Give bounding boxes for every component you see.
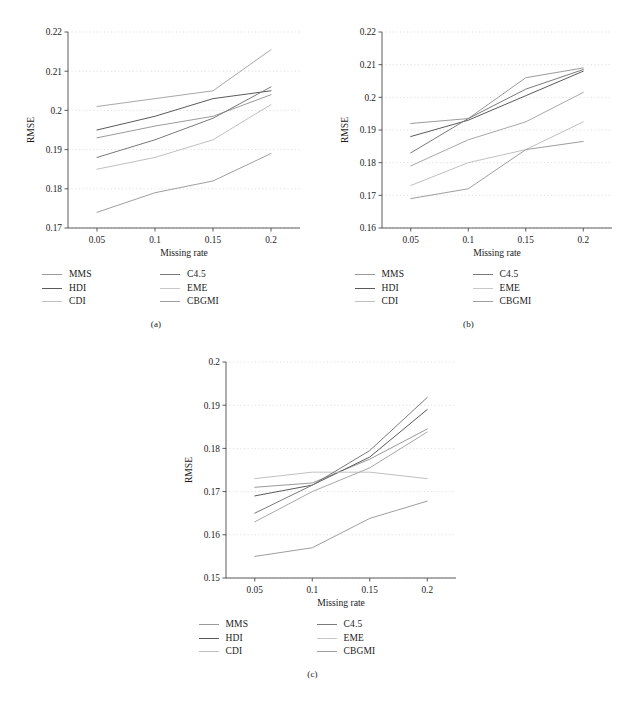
legend-a: MMS HDI CDI C4.5 EME CBGMI (42, 268, 270, 310)
series-line-hdi (255, 410, 428, 496)
series-line-mms (255, 429, 428, 487)
legend-item-cdi[interactable]: CDI (42, 295, 92, 309)
x-tick-label: 0.2 (265, 235, 277, 245)
legend-swatch-eme (317, 638, 337, 639)
legend-item-mms[interactable]: MMS (355, 268, 405, 282)
y-tick-label: 0.19 (46, 145, 63, 155)
legend-label-mms: MMS (382, 268, 405, 282)
series-line-cbgmi (97, 154, 271, 213)
panel-b: 0.160.170.180.190.20.210.220.050.10.150.… (312, 0, 625, 340)
plot-area-b: 0.160.170.180.190.20.210.220.050.10.150.… (312, 0, 625, 268)
legend-item-c45[interactable]: C4.5 (160, 268, 219, 282)
legend-item-mms[interactable]: MMS (199, 618, 249, 632)
legend-label-cbgmi: CBGMI (187, 295, 219, 309)
x-tick-label: 0.2 (577, 235, 589, 245)
legend-label-eme: EME (344, 632, 365, 646)
x-axis-title: Missing rate (317, 597, 365, 608)
legend-item-c45[interactable]: C4.5 (473, 268, 532, 282)
legend-item-eme[interactable]: EME (160, 282, 219, 296)
legend-swatch-eme (473, 288, 493, 289)
x-tick-label: 0.2 (421, 585, 433, 595)
x-tick-label: 0.1 (462, 235, 474, 245)
y-tick-label: 0.18 (360, 158, 377, 168)
legend-item-cdi[interactable]: CDI (355, 295, 405, 309)
panel-caption-a: (a) (0, 319, 312, 329)
legend-item-hdi[interactable]: HDI (199, 632, 249, 646)
panel-c: 0.150.160.170.180.190.20.050.10.150.2Mis… (156, 340, 469, 701)
legend-column-left-c: MMS HDI CDI (199, 618, 249, 659)
y-axis-title: RMSE (25, 117, 36, 143)
panel-caption-b: (b) (312, 319, 625, 329)
legend-label-cdi: CDI (69, 295, 86, 309)
x-tick-label: 0.1 (306, 585, 318, 595)
legend-item-c45[interactable]: C4.5 (317, 618, 376, 632)
y-tick-label: 0.17 (204, 487, 221, 497)
y-tick-label: 0.16 (360, 223, 377, 233)
legend-swatch-mms (199, 624, 219, 625)
legend-c: MMS HDI CDI C4.5 EME CBGMI (199, 618, 427, 660)
y-tick-label: 0.21 (360, 60, 377, 70)
x-tick-label: 0.05 (247, 585, 264, 595)
legend-item-eme[interactable]: EME (473, 282, 532, 296)
legend-swatch-cbgmi (317, 651, 337, 652)
x-tick-label: 0.15 (205, 235, 222, 245)
y-tick-label: 0.17 (360, 191, 377, 201)
series-line-cdi (97, 105, 271, 170)
series-line-cbgmi (255, 501, 428, 556)
legend-swatch-c45 (317, 624, 337, 625)
legend-label-cdi: CDI (226, 645, 243, 659)
series-line-cbgmi (411, 141, 584, 198)
legend-swatch-hdi (42, 288, 62, 289)
legend-label-c45: C4.5 (344, 618, 363, 632)
legend-item-cbgmi[interactable]: CBGMI (160, 295, 219, 309)
legend-label-c45: C4.5 (187, 268, 206, 282)
legend-label-hdi: HDI (226, 632, 243, 646)
y-tick-label: 0.2 (50, 106, 62, 116)
series-line-c45 (97, 87, 271, 158)
legend-column-left-a: MMS HDI CDI (42, 268, 92, 309)
legend-label-cdi: CDI (382, 295, 399, 309)
y-tick-label: 0.21 (46, 67, 63, 77)
y-axis-title: RMSE (183, 457, 194, 483)
legend-label-eme: EME (187, 282, 208, 296)
legend-item-hdi[interactable]: HDI (42, 282, 92, 296)
legend-swatch-cbgmi (160, 301, 180, 302)
legend-column-right-b: C4.5 EME CBGMI (473, 268, 532, 309)
legend-label-cbgmi: CBGMI (500, 295, 532, 309)
legend-item-cbgmi[interactable]: CBGMI (317, 645, 376, 659)
line-chart-c: 0.150.160.170.180.190.20.050.10.150.2Mis… (156, 340, 469, 618)
legend-item-cdi[interactable]: CDI (199, 645, 249, 659)
y-tick-label: 0.17 (46, 223, 63, 233)
y-axis-title: RMSE (339, 117, 350, 143)
y-tick-label: 0.2 (208, 357, 220, 367)
y-tick-label: 0.18 (46, 184, 63, 194)
x-tick-label: 0.15 (518, 235, 535, 245)
line-chart-a: 0.170.180.190.20.210.220.050.10.150.2Mis… (0, 0, 312, 268)
legend-label-mms: MMS (69, 268, 92, 282)
y-tick-label: 0.19 (360, 125, 377, 135)
y-tick-label: 0.16 (204, 530, 221, 540)
legend-swatch-cbgmi (473, 301, 493, 302)
legend-item-eme[interactable]: EME (317, 632, 376, 646)
legend-swatch-cdi (355, 301, 375, 302)
plot-area-c: 0.150.160.170.180.190.20.050.10.150.2Mis… (156, 340, 469, 618)
legend-label-eme: EME (500, 282, 521, 296)
series-line-eme (97, 50, 271, 107)
legend-label-cbgmi: CBGMI (344, 645, 376, 659)
legend-item-cbgmi[interactable]: CBGMI (473, 295, 532, 309)
panel-a: 0.170.180.190.20.210.220.050.10.150.2Mis… (0, 0, 312, 340)
legend-column-right-a: C4.5 EME CBGMI (160, 268, 219, 309)
legend-swatch-hdi (199, 638, 219, 639)
series-line-mms (411, 68, 584, 124)
legend-item-hdi[interactable]: HDI (355, 282, 405, 296)
legend-label-hdi: HDI (69, 282, 86, 296)
legend-swatch-hdi (355, 288, 375, 289)
y-tick-label: 0.19 (204, 401, 221, 411)
legend-swatch-c45 (473, 274, 493, 275)
y-tick-label: 0.2 (364, 93, 376, 103)
x-tick-label: 0.15 (362, 585, 379, 595)
series-line-cdi (255, 472, 428, 478)
legend-item-mms[interactable]: MMS (42, 268, 92, 282)
x-axis-title: Missing rate (160, 247, 208, 258)
legend-swatch-cdi (199, 651, 219, 652)
